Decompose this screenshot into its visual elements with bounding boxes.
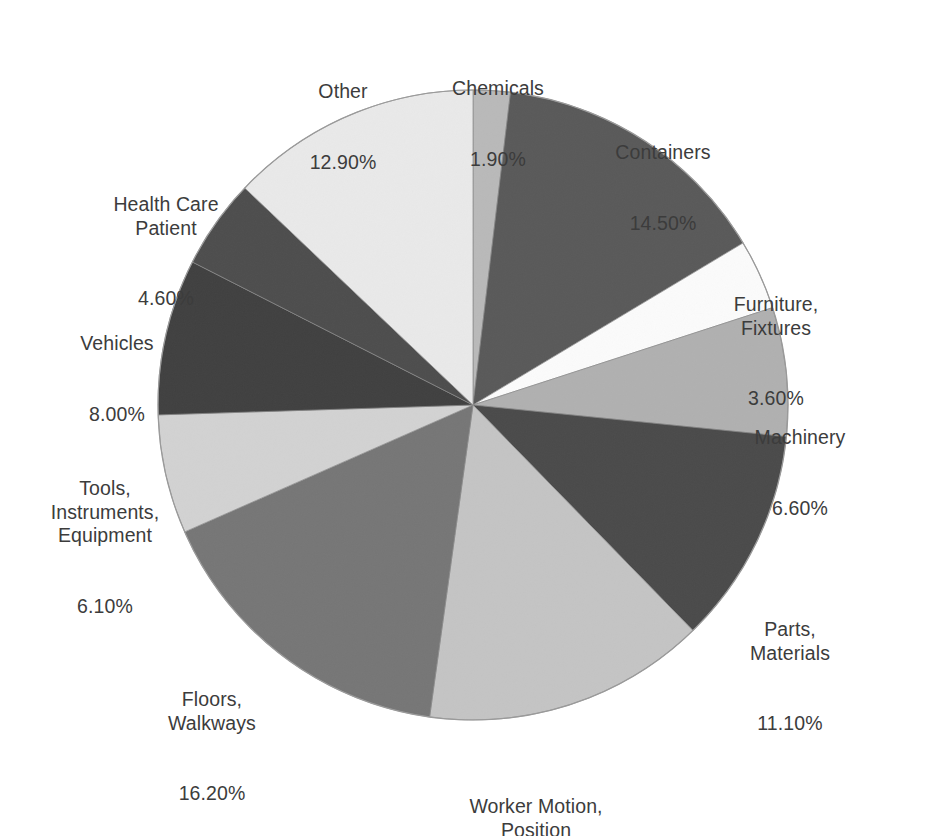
pie-label-worker-motion-position-name: Worker Motion, Position: [411, 795, 661, 836]
pie-label-other: Other 12.90%: [263, 33, 423, 221]
pie-label-machinery-value: 6.60%: [710, 497, 890, 521]
pie-label-worker-motion-position: Worker Motion, Position 14.50%: [411, 748, 661, 836]
pie-label-floors-walkways-value: 16.20%: [112, 782, 312, 806]
pie-label-floors-walkways: Floors, Walkways 16.20%: [112, 641, 312, 836]
pie-label-containers-value: 14.50%: [568, 212, 758, 236]
pie-label-health-care-patient-value: 4.60%: [71, 287, 261, 311]
pie-label-floors-walkways-name: Floors, Walkways: [112, 688, 312, 735]
pie-label-machinery-name: Machinery: [710, 426, 890, 450]
pie-label-vehicles-value: 8.00%: [27, 403, 207, 427]
pie-label-tools-instruments-equipment-value: 6.10%: [0, 595, 210, 619]
pie-label-health-care-patient-name: Health Care Patient: [71, 193, 261, 240]
pie-label-parts-materials-name: Parts, Materials: [705, 618, 875, 665]
pie-label-machinery: Machinery 6.60%: [710, 379, 890, 567]
pie-label-furniture-fixtures-name: Furniture, Fixtures: [691, 293, 861, 340]
pie-label-chemicals-name: Chemicals: [413, 77, 583, 101]
pie-label-parts-materials: Parts, Materials 11.10%: [705, 571, 875, 783]
pie-label-chemicals-value: 1.90%: [413, 148, 583, 172]
pie-label-containers-name: Containers: [568, 141, 758, 165]
pie-label-other-value: 12.90%: [263, 151, 423, 175]
pie-chart: Other 12.90% Chemicals 1.90% Containers …: [0, 0, 926, 836]
pie-label-other-name: Other: [263, 80, 423, 104]
pie-label-parts-materials-value: 11.10%: [705, 712, 875, 736]
pie-label-health-care-patient: Health Care Patient 4.60%: [71, 146, 261, 358]
pie-label-tools-instruments-equipment-name: Tools, Instruments, Equipment: [0, 477, 210, 548]
pie-label-chemicals: Chemicals 1.90%: [413, 30, 583, 218]
